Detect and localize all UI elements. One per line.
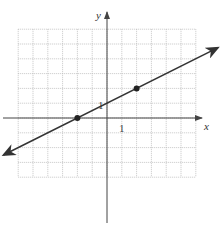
data-point bbox=[74, 115, 80, 121]
series bbox=[3, 48, 218, 155]
x-tick-label: 1 bbox=[119, 122, 125, 134]
coordinate-plane: x y 1 1 bbox=[0, 0, 223, 226]
x-axis-label: x bbox=[203, 120, 209, 132]
axis-labels: x y 1 1 bbox=[95, 9, 209, 134]
y-axis-label: y bbox=[95, 9, 101, 21]
data-point bbox=[134, 85, 140, 91]
